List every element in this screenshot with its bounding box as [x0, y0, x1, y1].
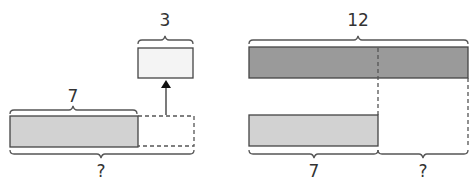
right-known-brace — [249, 150, 378, 158]
left-bar-brace-top — [10, 106, 137, 114]
right-diagram: 12 7 ? — [249, 10, 468, 181]
right-unknown-brace — [378, 150, 468, 158]
right-total-label: 12 — [347, 10, 369, 30]
small-box-label: 3 — [160, 10, 171, 30]
left-total-label: ? — [96, 161, 105, 181]
left-dashed-extension — [138, 116, 194, 146]
bar-model-diagrams: 3 7 ? 12 7 ? — [0, 0, 475, 190]
small-box — [138, 48, 193, 78]
left-total-brace — [10, 150, 194, 158]
right-known-label: 7 — [309, 161, 320, 181]
right-total-brace — [249, 36, 468, 44]
right-light-bar — [249, 115, 378, 146]
right-dark-bar — [249, 47, 468, 78]
left-light-bar — [10, 116, 138, 147]
left-diagram: 3 7 ? — [10, 10, 194, 181]
arrow-up-icon — [161, 80, 171, 88]
left-bar-label: 7 — [68, 86, 79, 106]
small-box-brace — [138, 36, 193, 44]
right-unknown-label: ? — [418, 161, 427, 181]
